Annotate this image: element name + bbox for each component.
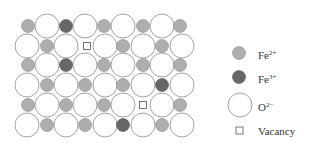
fe2-ion — [41, 79, 54, 92]
oxygen-ion — [54, 34, 78, 58]
oxygen-ion — [15, 113, 39, 137]
fe2-ion — [174, 99, 187, 112]
legend-label-oxygen: O2− — [258, 99, 273, 113]
oxygen-ion — [15, 73, 39, 97]
oxygen-ion — [73, 14, 97, 38]
legend-vacancy-icon — [236, 127, 243, 134]
legend-symbols — [228, 47, 252, 135]
fe2-ion — [22, 59, 35, 72]
vacancy-site — [140, 102, 147, 109]
oxygen-ion — [131, 73, 155, 97]
fe2-ion — [117, 40, 130, 53]
lattice-sites — [15, 14, 194, 137]
fe2-ion — [79, 119, 92, 132]
fe2-ion — [22, 20, 35, 33]
fe2-ion — [174, 20, 187, 33]
fe2-ion — [41, 40, 54, 53]
oxygen-ion — [93, 113, 117, 137]
fe2-ion — [98, 99, 111, 112]
fe2-ion — [79, 79, 92, 92]
legend-oxygen-icon — [228, 93, 252, 117]
oxygen-ion — [150, 53, 174, 77]
oxygen-ion — [170, 113, 194, 137]
legend-label-fe2: Fe2+ — [258, 47, 276, 61]
oxygen-ion — [111, 14, 135, 38]
oxygen-ion — [35, 93, 59, 117]
oxygen-ion — [35, 53, 59, 77]
fe3-ion — [117, 119, 130, 132]
vacancy-site — [84, 43, 91, 50]
legend-fe2-icon — [233, 47, 246, 60]
oxygen-ion — [150, 14, 174, 38]
legend-fe3-icon — [233, 71, 246, 84]
fe2-ion — [137, 59, 150, 72]
legend-label-vacancy: Vacancy — [258, 125, 295, 137]
oxygen-ion — [15, 34, 39, 58]
fe2-ion — [137, 20, 150, 33]
oxygen-ion — [170, 34, 194, 58]
fe2-ion — [156, 119, 169, 132]
oxygen-ion — [93, 73, 117, 97]
fe2-ion — [117, 79, 130, 92]
fe2-ion — [41, 119, 54, 132]
fe3-ion — [156, 79, 169, 92]
legend-label-fe3: Fe3+ — [258, 71, 276, 85]
fe2-ion — [98, 20, 111, 33]
fe2-ion — [156, 40, 169, 53]
oxygen-ion — [93, 34, 117, 58]
oxygen-ion — [150, 93, 174, 117]
oxygen-ion — [131, 34, 155, 58]
oxygen-ion — [170, 73, 194, 97]
oxygen-ion — [111, 53, 135, 77]
oxygen-ion — [131, 113, 155, 137]
fe2-ion — [22, 99, 35, 112]
fe3-ion — [60, 20, 73, 33]
fe2-ion — [98, 59, 111, 72]
oxygen-ion — [54, 73, 78, 97]
oxygen-ion — [54, 113, 78, 137]
oxygen-ion — [111, 93, 135, 117]
fe3-ion — [60, 59, 73, 72]
oxygen-ion — [73, 93, 97, 117]
fe2-ion — [60, 99, 73, 112]
fe2-ion — [174, 59, 187, 72]
oxygen-ion — [35, 14, 59, 38]
oxygen-ion — [73, 53, 97, 77]
